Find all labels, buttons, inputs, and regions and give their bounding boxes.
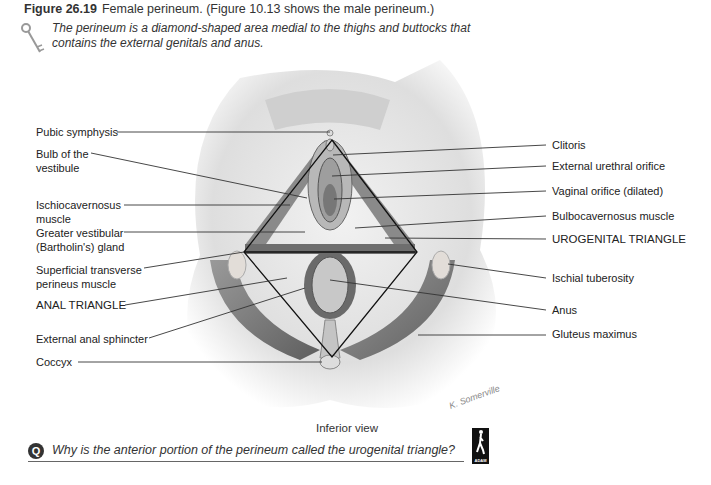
label-vaginal-orifice: Vaginal orifice (dilated): [552, 184, 663, 198]
label-superficial-transverse: Superficial transverseperineus muscle: [36, 263, 142, 291]
adam-logo-icon: ADAM: [472, 428, 489, 464]
label-pubic-symphysis: Pubic symphysis: [36, 125, 118, 139]
label-ischiocavernosus: Ischiocavernosusmuscle: [36, 198, 121, 226]
label-external-urethral-orifice: External urethral orifice: [552, 159, 665, 173]
label-external-anal-sphincter: External anal sphincter: [36, 332, 148, 346]
label-bulb-of-vestibule: Bulb of thevestibule: [36, 147, 89, 175]
adam-logo-text: ADAM: [472, 458, 489, 463]
label-gluteus-maximus: Gluteus maximus: [552, 327, 637, 341]
review-question: Why is the anterior portion of the perin…: [52, 443, 455, 457]
label-clitoris: Clitoris: [552, 138, 586, 152]
label-anal-triangle: ANAL TRIANGLE: [36, 298, 126, 312]
view-caption: Inferior view: [316, 422, 378, 434]
label-coccyx: Coccyx: [36, 355, 72, 369]
label-urogenital-triangle: UROGENITAL TRIANGLE: [552, 232, 686, 246]
label-greater-vestibular-gland: Greater vestibular(Bartholin's) gland: [36, 226, 124, 254]
label-ischial-tuberosity: Ischial tuberosity: [552, 271, 634, 285]
question-divider: [28, 461, 464, 462]
label-anus: Anus: [552, 303, 577, 317]
label-bulbocavernosus: Bulbocavernosus muscle: [552, 209, 674, 223]
walking-figure-icon: [472, 428, 489, 458]
question-icon: Q: [28, 443, 44, 459]
